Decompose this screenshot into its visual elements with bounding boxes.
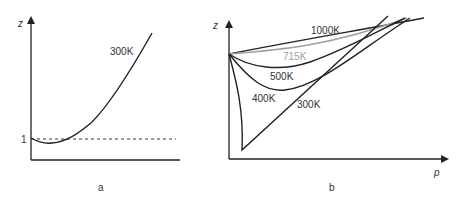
z-axis-label-b: z xyxy=(212,20,218,31)
panel-b: z p 1000K 715K 500K 400K 300K b xyxy=(212,16,445,193)
caption-b: b xyxy=(329,182,335,193)
curve-label-500k: 500K xyxy=(270,71,294,82)
z-axis-label-a: z xyxy=(17,18,23,29)
curve-label-400k: 400K xyxy=(252,93,276,104)
curve-label-300k-a: 300K xyxy=(110,46,134,57)
figure: z 1 300K a z p 1000K 715K 500K 400K 300K… xyxy=(0,0,465,201)
tick-label-1: 1 xyxy=(21,134,27,145)
p-axis-label-b: p xyxy=(433,167,440,178)
caption-a: a xyxy=(98,182,104,193)
curve-label-715k: 715K xyxy=(283,51,307,62)
panel-a: z 1 300K a xyxy=(17,18,180,193)
curve-300k-a xyxy=(31,33,152,143)
curve-label-1000k: 1000K xyxy=(311,25,340,36)
curve-label-300k-b: 300K xyxy=(297,99,321,110)
